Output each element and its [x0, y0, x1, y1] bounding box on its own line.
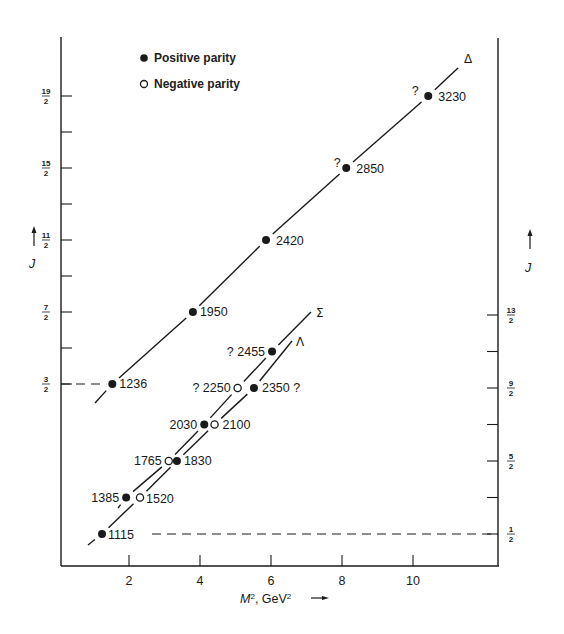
- filled-circle-marker: [108, 380, 116, 388]
- left-y-tick-label: 112: [42, 231, 51, 250]
- data-point-label: 1765: [134, 454, 162, 468]
- filled-circle-marker: [98, 530, 106, 538]
- data-point-1520: 1520: [136, 492, 173, 506]
- filled-circle-marker: [424, 92, 432, 100]
- legend-positive-label: Positive parity: [154, 51, 236, 65]
- arrowhead-icon: [32, 226, 37, 233]
- data-point-label: 2350 ?: [262, 381, 300, 395]
- left-y-tick-label: 32: [42, 375, 50, 394]
- fraction-numerator: 19: [42, 87, 51, 96]
- trajectory-line-delta: [199, 246, 259, 305]
- axes: [61, 37, 499, 566]
- data-points: 1236195024202850?3230?138517652030? 2250…: [91, 84, 466, 542]
- filled-circle-marker: [268, 348, 276, 356]
- trajectory-line-delta: [435, 68, 458, 90]
- data-point-2455: ? 2455: [227, 345, 276, 359]
- data-point-label: 1385: [91, 491, 119, 505]
- arrowhead-icon: [528, 229, 533, 236]
- fraction-denominator: 2: [44, 97, 49, 106]
- arrowhead-icon: [322, 596, 329, 600]
- series-label-sigma: Σ: [316, 306, 324, 320]
- data-point-label: ? 2250: [192, 381, 230, 395]
- data-point-label: 3230: [438, 90, 466, 104]
- open-circle-marker: [234, 384, 241, 391]
- trajectory-line-delta: [273, 174, 340, 234]
- data-point-label: 1520: [146, 492, 174, 506]
- fraction-denominator: 2: [509, 535, 514, 544]
- data-point-label: 1950: [200, 305, 228, 319]
- x-axis-label: M2, GeV2: [240, 592, 292, 607]
- x-tick-label: 2: [126, 574, 133, 588]
- filled-circle-marker: [189, 308, 197, 316]
- x-tick-label: 4: [197, 574, 204, 588]
- trajectory-line-delta: [353, 102, 421, 162]
- axis-tick-labels: 2468101921521127232132925212: [42, 87, 516, 588]
- fraction-numerator: 11: [42, 231, 51, 240]
- fraction-denominator: 2: [44, 169, 49, 178]
- y-axis-right-title: J: [524, 229, 533, 275]
- fraction-denominator: 2: [44, 241, 49, 250]
- data-point-1830: 1830: [173, 454, 212, 468]
- x-tick-label: 10: [406, 574, 420, 588]
- filled-circle-marker: [200, 421, 208, 429]
- data-point-label: 2030: [169, 418, 197, 432]
- fraction-denominator: 2: [509, 389, 514, 398]
- right-y-tick-label: 12: [507, 525, 515, 544]
- filled-circle-marker: [342, 164, 350, 172]
- fraction-numerator: 7: [44, 303, 49, 312]
- filled-circle-marker: [122, 494, 130, 502]
- data-point-2030: 2030: [169, 418, 208, 432]
- trajectory-line-lambda: [88, 540, 95, 545]
- series-label-delta: Δ: [464, 52, 473, 66]
- data-point-1950: 1950: [189, 305, 228, 319]
- trajectory-lines: [88, 68, 458, 545]
- data-point-2100: 2100: [211, 418, 250, 432]
- filled-circle-marker: [262, 236, 270, 244]
- filled-circle-marker: [173, 457, 181, 465]
- reference-dashed-lines: [61, 384, 498, 534]
- uncertain-marker: ?: [334, 156, 341, 170]
- data-point-2350: 2350 ?: [250, 381, 300, 395]
- x-axis-title: M2, GeV2: [240, 592, 329, 607]
- fraction-numerator: 1: [509, 525, 514, 534]
- legend-negative-marker: [141, 81, 148, 88]
- trajectory-line-sigma: [278, 312, 311, 345]
- x-tick-label: 8: [339, 574, 346, 588]
- data-point-label: 1236: [119, 377, 147, 391]
- data-point-label: 2420: [276, 234, 304, 248]
- data-point-label: 2850: [356, 162, 384, 176]
- trajectory-line-sigma: [118, 505, 121, 508]
- regge-trajectory-chart: 2468101921521127232132925212 12361950242…: [0, 0, 564, 634]
- trajectory-line-delta: [119, 318, 186, 378]
- open-circle-marker: [136, 494, 143, 501]
- legend-positive-marker: [140, 54, 148, 62]
- fraction-numerator: 15: [42, 159, 51, 168]
- data-point-3230: 3230?: [412, 84, 466, 104]
- legend: Positive parity Negative parity: [140, 51, 240, 91]
- right-y-tick-label: 52: [507, 452, 515, 471]
- open-circle-marker: [211, 421, 218, 428]
- data-point-label: 1115: [108, 528, 134, 542]
- data-point-2250: ? 2250: [192, 381, 241, 395]
- y-axis-left-label: J: [28, 257, 36, 271]
- left-y-tick-label: 192: [42, 87, 51, 106]
- series-label-lambda: Λ: [296, 335, 305, 349]
- trajectory-line-sigma: [210, 395, 231, 418]
- data-point-label: 2100: [223, 418, 251, 432]
- fraction-numerator: 13: [507, 306, 516, 315]
- data-point-2850: 2850?: [334, 156, 384, 176]
- data-point-1115: 1115: [98, 528, 134, 542]
- fraction-denominator: 2: [44, 313, 49, 322]
- filled-circle-marker: [250, 384, 258, 392]
- y-axis-left-title: J: [28, 226, 37, 271]
- y-axis-right-label: J: [524, 261, 532, 275]
- fraction-denominator: 2: [44, 385, 49, 394]
- left-y-tick-label: 152: [42, 159, 51, 178]
- axis-titles: J J M2, GeV2: [28, 226, 533, 606]
- data-point-1236: 1236: [108, 377, 147, 391]
- trajectory-line-delta: [95, 391, 106, 403]
- fraction-denominator: 2: [509, 316, 514, 325]
- data-point-label: ? 2455: [227, 345, 265, 359]
- trajectory-line-lambda: [146, 467, 170, 491]
- fraction-numerator: 3: [44, 375, 49, 384]
